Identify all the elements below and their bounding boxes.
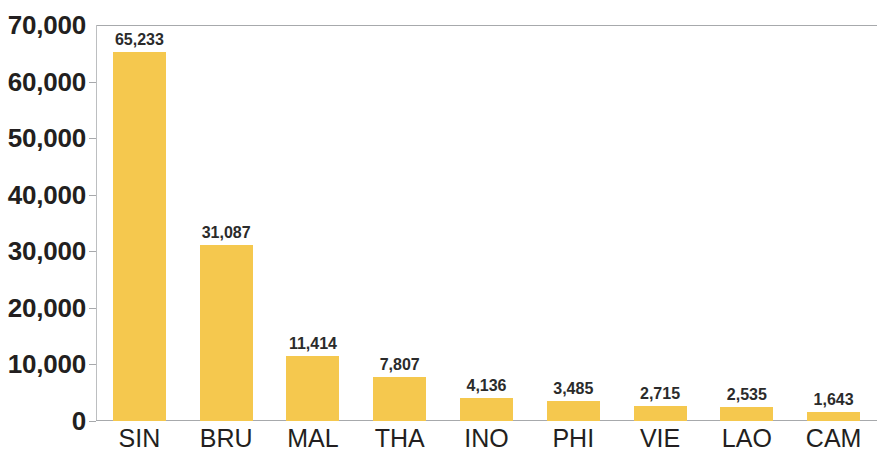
bar-value-label: 2,535 [727,387,767,403]
bar-value-label: 7,807 [380,357,420,373]
bar-group[interactable]: 1,643 [807,25,860,421]
y-axis: 010,00020,00030,00040,00050,00060,00070,… [0,0,86,454]
y-axis-tick-label: 30,000 [0,238,86,264]
bar-value-label: 2,715 [640,386,680,402]
y-axis-tick-label: 40,000 [0,182,86,208]
y-axis-tick-mark [89,138,96,139]
y-axis-tick-mark [89,364,96,365]
bar[interactable] [460,398,513,421]
bar-group[interactable]: 11,414 [286,25,339,421]
y-axis-tick-label: 20,000 [0,295,86,321]
bar[interactable] [373,377,426,421]
bar-value-label: 65,233 [115,32,164,48]
y-axis-tick-mark [89,421,96,422]
bar-chart: 010,00020,00030,00040,00050,00060,00070,… [0,0,879,454]
bar-value-label: 11,414 [289,336,337,352]
bar-group[interactable]: 31,087 [200,25,253,421]
bar-group[interactable]: 2,715 [634,25,687,421]
x-axis: SINBRUMALTHAINOPHIVIELAOCAM [96,425,877,454]
x-axis-tick-label: CAM [806,425,862,453]
y-axis-tick-mark [89,251,96,252]
bar-value-label: 1,643 [814,392,854,408]
bar[interactable] [113,52,166,421]
x-axis-tick-label: BRU [200,425,253,453]
x-axis-tick-label: THA [375,425,425,453]
x-axis-tick-label: PHI [552,425,594,453]
y-axis-tick-label: 60,000 [0,69,86,95]
y-axis-tick-label: 10,000 [0,351,86,377]
y-axis-tick-label: 70,000 [0,12,86,38]
bar[interactable] [807,412,860,421]
bar-value-label: 31,087 [202,225,251,241]
y-axis-tick-mark [89,308,96,309]
bar[interactable] [634,406,687,421]
y-axis-tick-label: 50,000 [0,125,86,151]
x-axis-tick-label: INO [464,425,508,453]
bar-group[interactable]: 2,535 [720,25,773,421]
bar[interactable] [720,407,773,421]
x-axis-tick-label: SIN [119,425,161,453]
plot-area: 65,23331,08711,4147,8074,1363,4852,7152,… [96,25,877,421]
bar[interactable] [547,401,600,421]
bar-value-label: 4,136 [466,378,506,394]
bar-group[interactable]: 65,233 [113,25,166,421]
bar-group[interactable]: 7,807 [373,25,426,421]
x-axis-tick-label: MAL [287,425,338,453]
bars-layer: 65,23331,08711,4147,8074,1363,4852,7152,… [96,25,877,421]
x-axis-tick-label: LAO [722,425,772,453]
bar[interactable] [286,356,339,421]
y-axis-tick-label: 0 [0,408,86,434]
bar-group[interactable]: 4,136 [460,25,513,421]
y-axis-tick-mark [89,82,96,83]
y-axis-tick-mark [89,195,96,196]
bar-value-label: 3,485 [553,381,593,397]
bar[interactable] [200,245,253,421]
x-axis-tick-label: VIE [640,425,680,453]
bar-group[interactable]: 3,485 [547,25,600,421]
